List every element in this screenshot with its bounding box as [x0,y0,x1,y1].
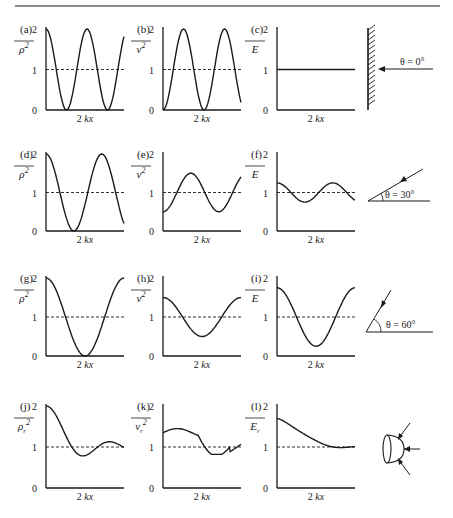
panel-label: (c) [251,23,264,36]
panel-label: (l) [251,400,262,413]
x-axis-label: 2 kx [194,359,211,370]
y-tick-label: 2 [32,149,37,160]
y-axis-label: ρ2 [18,41,28,55]
wall-hatch [368,95,375,100]
panel-label: (i) [251,272,262,285]
y-tick-label: 2 [32,401,37,412]
y-tick-label: 0 [263,351,268,362]
y-tick-label: 1 [32,442,37,453]
y-tick-label: 1 [32,65,37,76]
y-tick-label: 1 [263,442,268,453]
panel-e: (e)012v22 kx [131,148,241,245]
y-tick-label: 2 [32,24,37,35]
angle-label: θ = 60° [386,319,415,330]
data-curve [277,418,355,447]
data-curve [46,406,124,456]
wall-hatch [368,55,375,60]
wall-hatch [368,45,375,50]
angle-label: θ = 30° [385,189,414,200]
y-tick-label: 1 [149,312,154,323]
panel-f: (f)012E2 kx [245,148,355,245]
oblique-60-diagram: θ = 60° [366,290,433,332]
y-axis-label: v2 [137,41,146,55]
arrow-head-icon [381,300,386,308]
panel-label: (j) [20,400,31,413]
y-axis-label: ρ2 [18,166,28,180]
panel-g: (g)012ρ22 kx [14,272,124,370]
y-axis-label: E [251,43,259,55]
wall-hatch [368,60,375,65]
y-tick-label: 1 [149,188,154,199]
random-incidence-diagram [383,423,420,475]
y-tick-label: 2 [263,149,268,160]
wall-hatch [368,30,375,35]
y-tick-label: 0 [263,226,268,237]
wall-hatch [368,80,375,85]
y-tick-label: 2 [263,24,268,35]
x-axis-label: 2 kx [77,359,94,370]
y-tick-label: 0 [263,483,268,494]
y-tick-label: 0 [32,483,37,494]
panel-h: (h)012v22 kx [131,272,241,370]
panel-k: (k)012vr22 kx [131,400,241,502]
y-tick-label: 0 [32,351,37,362]
arrow-head-icon [404,446,410,452]
wall-hatch [368,100,375,105]
panel-l: (l)012Er2 kx [245,400,355,502]
x-axis-label: 2 kx [194,113,211,124]
x-axis-label: 2 kx [308,113,325,124]
panel-i: (i)012E2 kx [245,272,355,370]
y-tick-label: 0 [32,105,37,116]
y-axis-label: E [251,168,259,180]
angle-arc [381,193,383,201]
y-axis-label: vr2 [135,418,147,435]
x-axis-label: 2 kx [194,234,211,245]
y-axis-label: Er [249,420,260,435]
x-axis-label: 2 kx [77,113,94,124]
hemisphere-rim [383,435,391,463]
y-tick-label: 2 [149,273,154,284]
y-axis-label: v2 [137,166,146,180]
x-axis-label: 2 kx [77,491,94,502]
y-tick-label: 1 [149,442,154,453]
y-tick-label: 1 [263,65,268,76]
y-tick-label: 1 [32,188,37,199]
y-tick-label: 2 [263,273,268,284]
angle-label: θ = 0° [400,56,424,67]
x-axis-label: 2 kx [308,491,325,502]
y-tick-label: 0 [263,105,268,116]
y-tick-label: 0 [149,105,154,116]
x-axis-label: 2 kx [308,359,325,370]
y-tick-label: 2 [149,401,154,412]
panel-label: (a) [20,23,33,36]
y-tick-label: 0 [32,226,37,237]
y-tick-label: 0 [149,483,154,494]
panel-j: (j)012ρr22 kx [14,400,124,502]
oblique-30-diagram: θ = 30° [368,169,430,201]
y-tick-label: 0 [149,351,154,362]
y-tick-label: 2 [149,149,154,160]
wall-hatch [368,50,375,55]
wall-incidence-diagram: θ = 0° [368,25,433,110]
x-axis-label: 2 kx [77,234,94,245]
wall-hatch [368,25,375,30]
wall-hatch [368,90,375,95]
angle-arc [374,319,381,332]
arrow-head-icon [378,66,385,72]
y-tick-label: 1 [263,312,268,323]
y-tick-label: 1 [263,188,268,199]
figure-canvas: (a)012ρ22 kx(b)012v22 kx(c)012E2 kx(d)01… [0,0,453,518]
panel-label: (f) [251,148,262,161]
panel-a: (a)012ρ22 kx [14,23,124,124]
x-axis-label: 2 kx [194,491,211,502]
wall-hatch [368,35,375,40]
y-tick-label: 2 [263,401,268,412]
y-tick-label: 2 [149,24,154,35]
wall-hatch [368,40,375,45]
y-axis-label: ρr2 [17,418,30,435]
y-axis-label: ρ2 [18,290,28,304]
panel-b: (b)012v22 kx [131,23,241,124]
data-curve [163,429,241,455]
wall-hatch [368,70,375,75]
y-tick-label: 1 [32,312,37,323]
